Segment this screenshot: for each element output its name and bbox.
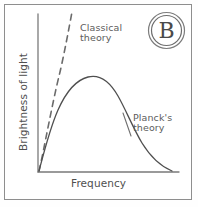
planck-label-leader <box>123 113 131 136</box>
panel-badge-letter: B <box>149 13 184 48</box>
figure-panel: B Classical theory Planck's theory Frequ… <box>0 0 198 207</box>
classical-theory-curve <box>39 12 72 171</box>
x-axis-label: Frequency <box>71 178 126 189</box>
y-axis-label: Brightness of light <box>18 37 29 167</box>
classical-theory-label: Classical theory <box>80 23 122 44</box>
planck-theory-label: Planck's theory <box>133 113 172 134</box>
y-axis-label-wrapper: Brightness of light <box>18 37 34 167</box>
